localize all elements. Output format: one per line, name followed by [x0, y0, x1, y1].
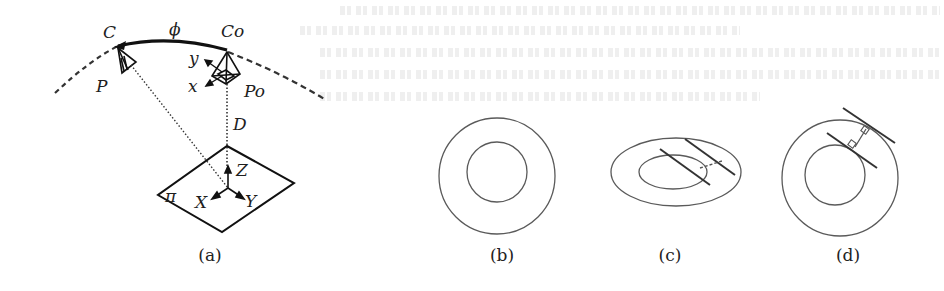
label-phi: ϕ — [169, 19, 181, 39]
outer-circle — [439, 118, 555, 234]
camera-p-icon — [118, 48, 136, 73]
label-co: Co — [221, 21, 244, 41]
tangent-line-inner — [827, 133, 877, 168]
label-y: Y — [245, 191, 258, 211]
label-pi: π — [164, 186, 177, 206]
label-x: X — [193, 192, 208, 212]
caption-c: (c) — [659, 245, 682, 265]
panel-a: C ϕ Co y x P Po D Z π X Y (a) — [55, 19, 326, 265]
outer-circle — [782, 120, 898, 236]
outer-ellipse — [611, 138, 741, 206]
dotted-line-p — [131, 65, 228, 188]
perpendicular-connector — [855, 129, 866, 147]
label-c: C — [103, 22, 116, 42]
label-po: Po — [243, 81, 265, 101]
caption-b: (b) — [490, 245, 514, 265]
panel-c: (c) — [611, 138, 741, 265]
inner-ellipse — [639, 155, 707, 189]
panel-d: (d) — [782, 108, 898, 265]
label-x-small: x — [188, 76, 198, 96]
tangent-line-outer — [843, 108, 895, 143]
caption-d: (d) — [836, 245, 860, 265]
caption-a: (a) — [198, 245, 221, 265]
label-d: D — [232, 114, 247, 134]
label-y-small: y — [188, 48, 199, 68]
tangent-line-outer — [685, 139, 735, 175]
label-z: Z — [235, 160, 249, 180]
inner-circle — [467, 142, 527, 202]
arc-phi — [118, 41, 227, 50]
panel-b: (b) — [439, 118, 555, 265]
dashed-sphere-arc-right — [228, 52, 326, 100]
figure: C ϕ Co y x P Po D Z π X Y (a) (b) — [0, 0, 944, 291]
label-p: P — [95, 76, 108, 96]
dashed-sphere-arc — [55, 46, 118, 93]
